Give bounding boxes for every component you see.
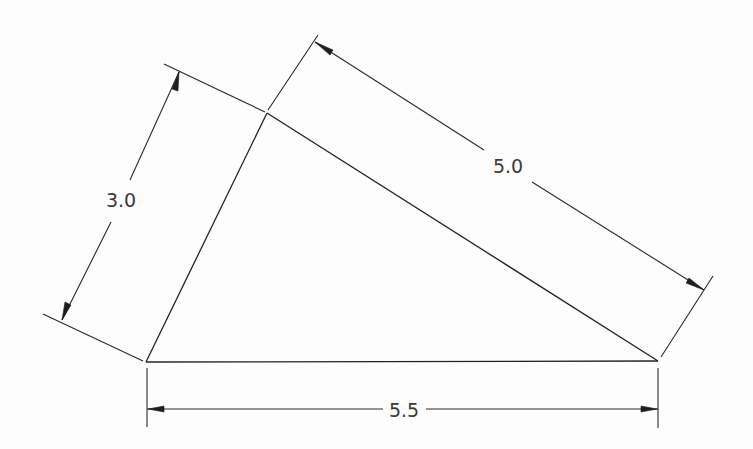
- dimension-left-side: 3.0: [43, 64, 265, 361]
- dimension-line: [532, 182, 704, 290]
- dimension-label-left: 3.0: [106, 189, 136, 211]
- extension-line: [164, 64, 265, 112]
- arrowhead-icon: [172, 72, 179, 91]
- arrowhead-icon: [641, 406, 657, 412]
- triangle-dimension-drawing: 3.0 5.0 5.5: [0, 0, 753, 449]
- triangle-edge-left: [146, 113, 267, 362]
- triangle-edge-hypotenuse: [267, 113, 658, 361]
- extension-line: [43, 314, 143, 361]
- extension-line: [661, 276, 713, 357]
- dimension-label-base: 5.5: [389, 399, 419, 421]
- arrowhead-icon: [148, 406, 164, 412]
- extension-line: [268, 35, 318, 110]
- triangle-edge-base: [146, 361, 658, 362]
- dimension-label-hypotenuse: 5.0: [493, 155, 523, 177]
- arrowhead-icon: [315, 42, 333, 55]
- triangle: [146, 113, 658, 362]
- arrowhead-icon: [686, 278, 704, 290]
- dimension-hypotenuse: 5.0: [268, 35, 713, 357]
- dimension-line: [315, 42, 484, 150]
- dimension-base: 5.5: [147, 368, 658, 428]
- dimension-line: [130, 72, 179, 180]
- arrowhead-icon: [62, 302, 71, 320]
